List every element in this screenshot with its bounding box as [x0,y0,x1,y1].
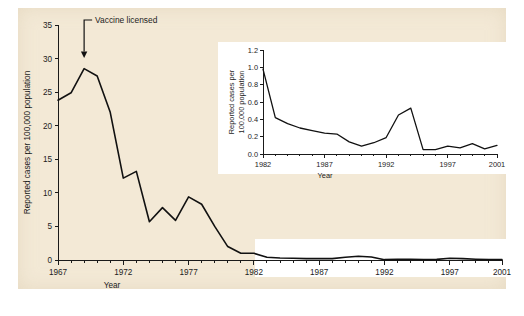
inset-y-ticklabel: 0.4 [248,115,258,124]
inset-y-ticklabel: 1.0 [248,63,258,72]
figure-canvas: 0510152025303519671972197719821987199219… [0,0,524,316]
inset-chart: 0.00.20.40.60.81.01.21982198719921997200… [0,0,524,316]
inset-x-ticklabel: 1997 [440,160,456,169]
inset-y-ticklabel: 1.2 [248,46,258,55]
inset-y-ticklabel: 0.2 [248,132,258,141]
inset-x-ticklabel: 1987 [316,160,332,169]
inset-x-ticklabel: 2001 [489,160,505,169]
inset-x-ticklabel: 1982 [255,160,271,169]
inset-y-axis-title-line1: Reported cases per [227,69,236,134]
inset-y-ticklabel: 0.6 [248,98,258,107]
inset-y-ticklabel: 0.0 [248,150,258,159]
inset-x-ticklabel: 1992 [378,160,394,169]
inset-y-axis-title-line2: 100,000 population [237,71,246,134]
inset-y-ticklabel: 0.8 [248,80,258,89]
inset-data-line [263,69,497,150]
inset-x-axis-title: Year [318,171,333,180]
